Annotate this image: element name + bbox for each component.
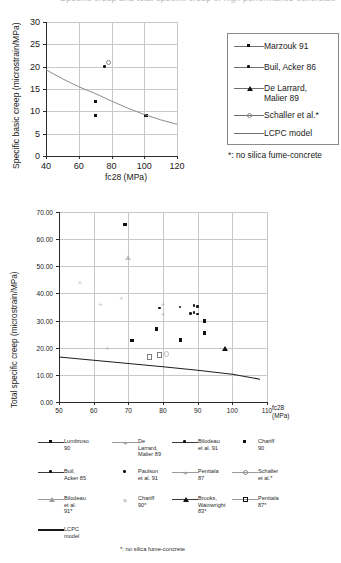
legend-symbol-tri-open-icon: [38, 495, 64, 503]
legend-symbol-square-open-icon: [232, 495, 258, 503]
legend-item-r2-c0: Bilodeau et al. 91*: [38, 495, 86, 515]
y-tick-label: 0.00: [40, 399, 53, 406]
x-tick-label: 80: [106, 161, 116, 171]
y-tick-label: 60.00: [36, 236, 53, 243]
legend-marker-dot-icon: [183, 440, 186, 443]
legend-symbol-circle-open-icon: [232, 468, 258, 476]
legend-label: Marzouk 91: [264, 41, 308, 51]
legend-item-r1-c2: +Penttala 87: [172, 468, 219, 481]
legend-item-r1-c3: Schaller et al.*: [232, 468, 278, 481]
legend-label: Bilodeau et al. 91: [198, 438, 220, 451]
legend-label: Penttala 87: [198, 468, 219, 481]
legend-item-r0-c2: Bilodeau et al. 91: [172, 438, 220, 451]
legend-label: Bilodeau et al. 91*: [64, 495, 86, 515]
legend-label: Schaller et al.*: [264, 110, 319, 120]
legend-marker-dot-icon: [123, 470, 126, 473]
y-tick-label: 15: [30, 84, 40, 94]
legend-marker-plus-icon: +: [123, 440, 128, 448]
legend-item-r2-c3: Penttala 87*: [232, 495, 279, 508]
x-tick-label: 80: [159, 407, 166, 414]
legend-symbol-plus-icon: +: [112, 438, 138, 446]
legend-symbol-dot-icon: [38, 468, 64, 476]
legend-line: [38, 529, 64, 531]
legend-label: Lumbroso 90: [64, 438, 89, 451]
x-tick-label: 60: [90, 407, 97, 414]
y-tick-label: 10: [30, 106, 40, 116]
lcpc-model-curve: [59, 212, 267, 402]
top-chart-y-axis-label: Specific basic creep (microstrain/MPa): [11, 22, 21, 169]
grid-line-vertical: [267, 212, 268, 402]
y-tick-label: 30.00: [36, 317, 53, 324]
legend-marker-dot-icon: [247, 65, 250, 68]
x-axis-line: [59, 402, 268, 403]
legend-item-0: Marzouk 91: [234, 41, 308, 51]
y-tick-label: 20: [30, 62, 40, 72]
top-chart-plot-area: 406080100120051015202530: [46, 22, 177, 156]
x-tick-label: 60: [74, 161, 84, 171]
legend-marker-triangle-icon: [183, 497, 189, 502]
x-tick-label: 120: [169, 161, 184, 171]
top-chart-legend: Marzouk 91Buil, Acker 86De Larrard, Mali…: [227, 33, 339, 145]
legend-marker-dot-icon: [49, 470, 52, 473]
legend-marker-plus-icon: +: [183, 470, 188, 478]
y-tick-label: 10.00: [36, 371, 53, 378]
legend-item-3: Schaller et al.*: [234, 110, 319, 120]
legend-item-r2-c2: Brooks, Wainwright 83*: [172, 495, 225, 515]
legend-line: [234, 133, 264, 134]
x-tick-label: 90: [194, 407, 201, 414]
y-tick-label: 70.00: [36, 209, 53, 216]
legend-marker-square-open-icon: [243, 497, 248, 502]
legend-label: Buil, Acker 86: [264, 62, 316, 72]
legend-label: Chariff 90*: [138, 495, 154, 508]
legend-symbol-plus-icon: +: [172, 468, 198, 476]
legend-symbol-circle-open-icon: [234, 110, 264, 120]
legend-item-2: De Larrard, Malier 89: [234, 83, 307, 103]
cropped-header-text: Specific creep and total specific creep …: [60, 0, 335, 3]
x-tick-label: 100: [137, 161, 152, 171]
legend-marker-x-icon: ×: [123, 497, 127, 504]
cropped-header: Specific creep and total specific creep …: [0, 0, 341, 10]
bottom-chart-panel: Total specific creep (microstrain/MPa) 5…: [0, 196, 341, 436]
bottom-chart-plot-area: 50607080901001100.0010.0020.0030.0040.00…: [59, 212, 267, 402]
y-tick-label: 40.00: [36, 290, 53, 297]
legend-symbol-square-icon: [234, 41, 264, 51]
legend-symbol-dot-icon: [234, 62, 264, 72]
legend-label: LCPC model: [264, 128, 312, 138]
x-axis-line: [46, 156, 178, 157]
x-tick-label: 40: [41, 161, 51, 171]
x-tick-label: 110: [262, 407, 273, 414]
x-tick-label: 100: [227, 407, 238, 414]
legend-label: Schaller et al.*: [258, 468, 278, 481]
legend-symbol-dot-nolne-icon: [112, 468, 138, 476]
legend-label: De Larrard, Malier 89: [138, 438, 161, 458]
legend-item-r1-c0: Buil, Acker 85: [38, 468, 86, 481]
x-tick-label: 70: [125, 407, 132, 414]
legend-marker-square-icon: [49, 440, 52, 443]
legend-symbol-triangle-icon: [172, 495, 198, 503]
bottom-chart-x-axis-label: fc28 (MPa): [272, 404, 289, 419]
legend-item-r3-c0: LCPC model: [38, 526, 79, 539]
bottom-chart-footnote: *: no silica fume-concrete: [120, 546, 185, 552]
legend-marker-triangle-icon: [247, 86, 253, 91]
legend-marker-circle-open-icon: [243, 470, 248, 475]
y-tick-label: 25: [30, 39, 40, 49]
legend-item-r1-c1: Paulson et al. 91: [112, 468, 158, 481]
legend-item-r2-c1: ×Chariff 90*: [112, 495, 154, 508]
lcpc-model-curve: [46, 22, 177, 156]
legend-item-r0-c0: Lumbroso 90: [38, 438, 89, 451]
top-chart-x-axis-label: fc28 (MPa): [86, 174, 166, 182]
y-tick-label: 50.00: [36, 263, 53, 270]
legend-symbol-dot-icon: [172, 438, 198, 446]
figure-container: Specific creep and total specific creep …: [0, 0, 341, 563]
legend-symbol-line-icon: [234, 128, 264, 138]
legend-item-r0-c3: Chariff 90: [232, 438, 274, 451]
x-tick-label: 50: [55, 407, 62, 414]
legend-symbol-thick-line-icon: [38, 526, 64, 534]
legend-marker-circle-open-icon: [247, 113, 252, 118]
legend-label: Penttala 87*: [258, 495, 279, 508]
legend-symbol-triangle-icon: [234, 83, 264, 93]
legend-label: LCPC model: [64, 526, 79, 539]
top-chart-footnote: *: no silica fume-concrete: [228, 150, 322, 160]
legend-symbol-square-icon: [38, 438, 64, 446]
legend-marker-tri-open-icon: [49, 497, 55, 502]
